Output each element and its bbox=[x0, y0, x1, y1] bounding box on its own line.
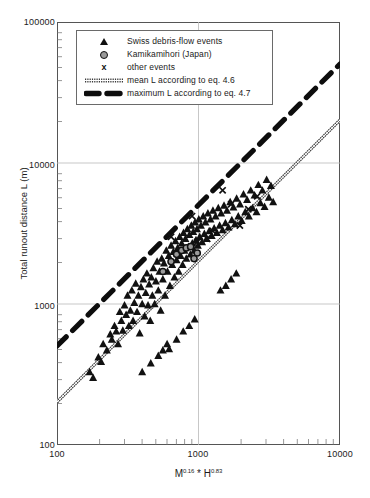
chart-legend: Swiss debris-flow events Kamikamihori (J… bbox=[76, 30, 273, 105]
marker-triangle bbox=[163, 340, 171, 347]
marker-triangle bbox=[175, 267, 183, 274]
legend-item-swiss-debris-flow: Swiss debris-flow events bbox=[81, 35, 268, 48]
marker-triangle bbox=[111, 322, 119, 329]
x-tick-1000: 1000 bbox=[178, 450, 218, 459]
legend-label-swiss: Swiss debris-flow events bbox=[127, 37, 222, 46]
marker-triangle bbox=[130, 299, 138, 306]
x-marker-icon: x bbox=[81, 63, 127, 72]
x-tick-100: 100 bbox=[37, 450, 77, 459]
triangle-marker-icon bbox=[81, 38, 127, 45]
y-tick-100: 100 bbox=[3, 441, 55, 450]
marker-circle bbox=[160, 268, 166, 274]
legend-label-mean: mean L according to eq. 4.6 bbox=[127, 76, 235, 85]
marker-triangle bbox=[157, 306, 165, 313]
marker-triangle bbox=[254, 181, 262, 188]
marker-circle bbox=[168, 258, 174, 264]
marker-triangle bbox=[154, 286, 162, 293]
marker-triangle bbox=[247, 186, 255, 193]
legend-item-maximum-line: maximum L according to eq. 4.7 bbox=[81, 87, 268, 100]
runout-distance-chart: 100000 10000 1000 100 Total runout dista… bbox=[0, 0, 370, 498]
marker-triangle bbox=[232, 269, 240, 276]
marker-triangle bbox=[143, 269, 151, 276]
marker-triangle bbox=[233, 194, 241, 201]
marker-triangle bbox=[129, 317, 137, 324]
marker-triangle bbox=[132, 279, 140, 286]
x-tick-10000: 10000 bbox=[320, 450, 360, 459]
legend-label-kamikamihori: Kamikamihori (Japan) bbox=[127, 50, 212, 59]
marker-triangle bbox=[159, 275, 167, 282]
marker-triangle bbox=[99, 340, 107, 347]
marker-triangle bbox=[147, 359, 155, 366]
marker-circle bbox=[188, 244, 194, 250]
y-tick-1000: 1000 bbox=[3, 302, 55, 311]
circle-marker-icon bbox=[81, 51, 127, 59]
marker-triangle bbox=[222, 281, 230, 288]
legend-item-other-events: x other events bbox=[81, 61, 268, 74]
marker-circle bbox=[194, 250, 200, 256]
marker-triangle bbox=[138, 368, 146, 375]
y-tick-100000: 100000 bbox=[3, 18, 55, 27]
legend-item-kamikamihori: Kamikamihori (Japan) bbox=[81, 48, 268, 61]
marker-triangle bbox=[144, 301, 152, 308]
legend-label-maximum: maximum L according to eq. 4.7 bbox=[127, 89, 251, 98]
x-axis-exp-m: 0.16 bbox=[183, 468, 194, 474]
x-axis-operator: * bbox=[194, 468, 203, 479]
x-axis-base-h: H bbox=[204, 468, 211, 479]
marker-triangle bbox=[138, 300, 146, 307]
marker-triangle bbox=[134, 291, 142, 298]
x-axis-title: M0.16 * H0.83 bbox=[57, 468, 340, 479]
marker-triangle bbox=[128, 286, 136, 293]
x-axis-exp-h: 0.83 bbox=[211, 468, 222, 474]
marker-triangle bbox=[263, 176, 271, 183]
legend-label-other: other events bbox=[127, 63, 175, 72]
marker-triangle bbox=[191, 315, 199, 322]
marker-triangle bbox=[119, 326, 127, 333]
y-tick-10000: 10000 bbox=[3, 161, 55, 170]
thick-dashed-line-icon bbox=[81, 89, 127, 98]
y-axis-title: Total runout distance L (m) bbox=[18, 149, 29, 299]
marker-triangle bbox=[116, 308, 124, 315]
marker-triangle bbox=[173, 335, 181, 342]
thin-hatched-line-icon bbox=[81, 77, 127, 84]
marker-triangle bbox=[240, 190, 248, 197]
legend-item-mean-line: mean L according to eq. 4.6 bbox=[81, 74, 268, 87]
marker-x bbox=[219, 187, 225, 193]
marker-triangle bbox=[121, 301, 129, 308]
marker-triangle bbox=[185, 322, 193, 329]
marker-triangle bbox=[133, 308, 141, 315]
marker-triangle bbox=[149, 264, 157, 271]
marker-triangle bbox=[136, 329, 144, 336]
x-axis-base-m: M bbox=[175, 468, 183, 479]
